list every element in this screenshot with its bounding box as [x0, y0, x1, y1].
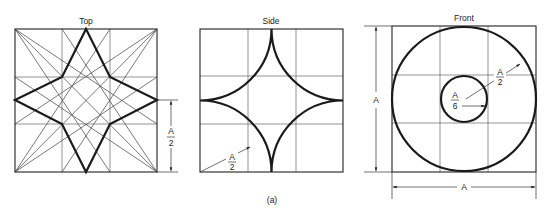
- front-view-inner-circle: [441, 76, 487, 122]
- front-view-title: Front: [454, 13, 474, 23]
- top-dim-numerator: A: [168, 126, 174, 136]
- side-view-dimension: A 2: [200, 147, 250, 172]
- top-dim-denominator: 2: [169, 138, 174, 148]
- top-view-dimension: A 2: [157, 100, 178, 172]
- figure-caption: (a): [267, 195, 278, 205]
- front-view: Front A 2 A 6: [364, 13, 536, 199]
- orthographic-views-diagram: Top A: [0, 0, 546, 213]
- top-view-construction-lines: [15, 29, 157, 172]
- front-view-outer-circle: [392, 27, 536, 171]
- side-view-grid: [200, 29, 343, 172]
- front-outer-numerator: A: [497, 67, 503, 77]
- front-height-label: A: [373, 95, 379, 105]
- side-view-curved-star: [200, 29, 343, 172]
- front-height-dimension: A: [364, 26, 392, 172]
- front-outer-denominator: 2: [498, 77, 503, 87]
- front-outer-radius-dimension: A 2: [466, 64, 520, 99]
- side-view-title: Side: [262, 16, 279, 26]
- side-dim-numerator: A: [229, 152, 235, 162]
- top-view: Top A: [15, 16, 178, 172]
- side-view-frame: [200, 29, 343, 172]
- front-width-label: A: [461, 182, 467, 192]
- top-view-title: Top: [79, 16, 93, 26]
- side-dim-denominator: 2: [230, 162, 235, 172]
- front-inner-denominator: 6: [453, 101, 458, 111]
- front-inner-numerator: A: [452, 90, 458, 100]
- front-inner-radius-dimension: A 6: [451, 90, 485, 111]
- side-view: Side A 2: [200, 16, 343, 172]
- front-width-dimension: A: [392, 172, 536, 199]
